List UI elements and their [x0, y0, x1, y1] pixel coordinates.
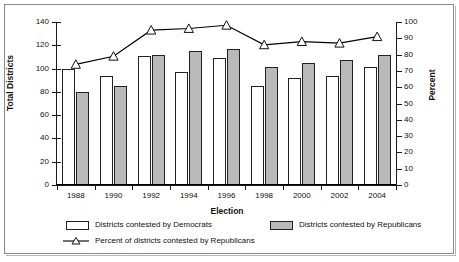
y-tick-label-right: 20 — [404, 147, 432, 156]
white-square-swatch-icon — [66, 221, 89, 230]
x-tick-label-1996: 1996 — [207, 191, 247, 200]
y-tick-label-right: 100 — [404, 17, 432, 26]
bar-democrats-1998 — [251, 86, 264, 185]
legend-label-republicans: Districts contested by Republicans — [299, 220, 421, 230]
y-tick-label-right: 90 — [404, 33, 432, 42]
x-tick-separator — [208, 185, 209, 190]
y-tick-label-left: 60 — [21, 110, 49, 119]
x-tick-label-1992: 1992 — [131, 191, 171, 200]
y-tick-right — [397, 136, 402, 137]
x-tick-separator — [283, 185, 284, 190]
legend-label-percent: Percent of districts contested by Republ… — [95, 236, 255, 246]
plot-area — [57, 22, 396, 185]
y-tick-right — [397, 185, 402, 186]
x-tick-separator — [245, 185, 246, 190]
y-axis-right-title: Percent — [427, 45, 437, 125]
y-tick-right — [397, 38, 402, 39]
x-tick-label-1988: 1988 — [56, 191, 96, 200]
y-tick-label-left: 120 — [21, 40, 49, 49]
y-tick-label-left: 100 — [21, 64, 49, 73]
bar-democrats-1996 — [213, 58, 226, 185]
legend-item-democrats: Districts contested by Democrats — [66, 220, 212, 230]
bar-republicans-1998 — [265, 67, 278, 185]
bar-republicans-1992 — [152, 55, 165, 185]
x-tick-separator — [132, 185, 133, 190]
bar-republicans-1990 — [114, 86, 127, 185]
x-tick-label-1994: 1994 — [169, 191, 209, 200]
bar-republicans-1988 — [76, 92, 89, 185]
y-tick-label-left: 0 — [21, 180, 49, 189]
y-tick-right — [397, 169, 402, 170]
x-tick-label-2000: 2000 — [282, 191, 322, 200]
bar-republicans-2004 — [378, 55, 391, 185]
legend-label-democrats: Districts contested by Democrats — [95, 220, 212, 230]
y-tick-label-left: 140 — [21, 17, 49, 26]
y-tick-label-left: 80 — [21, 87, 49, 96]
bar-democrats-1994 — [175, 72, 188, 185]
bar-democrats-2000 — [288, 78, 301, 185]
bar-republicans-2000 — [302, 63, 315, 185]
legend-item-percent: Percent of districts contested by Republ… — [63, 236, 255, 246]
bar-republicans-1996 — [227, 49, 240, 185]
bar-democrats-2004 — [364, 67, 377, 185]
x-tick-label-2004: 2004 — [357, 191, 397, 200]
y-tick-label-right: 10 — [404, 164, 432, 173]
y-tick-right — [397, 120, 402, 121]
y-tick-right — [397, 104, 402, 105]
bar-democrats-1992 — [138, 56, 151, 185]
y-tick-right — [397, 71, 402, 72]
x-tick-separator — [396, 185, 397, 190]
legend-item-republicans: Districts contested by Republicans — [270, 220, 421, 230]
chart-legend: Districts contested by Democrats Distric… — [0, 218, 450, 252]
x-tick-separator — [321, 185, 322, 190]
y-axis-left-title: Total Districts — [5, 38, 15, 128]
bar-democrats-2002 — [326, 76, 339, 185]
x-tick-separator — [358, 185, 359, 190]
bar-democrats-1988 — [62, 69, 75, 185]
y-tick-label-right: 0 — [404, 180, 432, 189]
x-tick-separator — [57, 185, 58, 190]
x-tick-label-1998: 1998 — [244, 191, 284, 200]
x-tick-label-2002: 2002 — [320, 191, 360, 200]
gray-square-swatch-icon — [270, 221, 293, 230]
y-tick-right — [397, 55, 402, 56]
y-tick-right — [397, 87, 402, 88]
x-tick-label-1990: 1990 — [94, 191, 134, 200]
y-tick-label-right: 30 — [404, 131, 432, 140]
y-tick-label-left: 20 — [21, 157, 49, 166]
y-tick-right — [397, 152, 402, 153]
y-tick-right — [397, 22, 402, 23]
y-tick-label-left: 40 — [21, 133, 49, 142]
x-tick-separator — [170, 185, 171, 190]
bar-democrats-1990 — [100, 76, 113, 185]
chart-figure: 020406080100120140 010203040506070809010… — [0, 0, 459, 262]
triangle-line-swatch-icon — [63, 236, 89, 246]
x-axis-line — [57, 185, 397, 186]
plot-baseline — [57, 184, 396, 185]
bar-republicans-2002 — [340, 60, 353, 185]
x-tick-separator — [95, 185, 96, 190]
bar-republicans-1994 — [189, 51, 202, 185]
x-axis-title: Election — [57, 206, 397, 216]
